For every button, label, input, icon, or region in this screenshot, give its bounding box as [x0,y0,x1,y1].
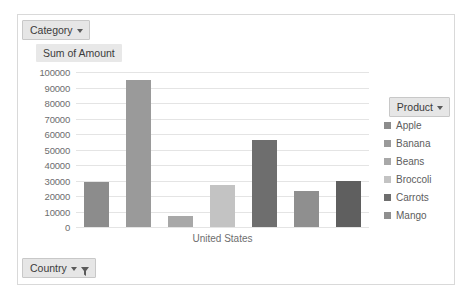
country-field-button[interactable]: Country [22,258,96,278]
bar[interactable] [294,191,319,227]
legend-item: Carrots [376,188,450,206]
y-axis-tick-label: 70000 [45,113,70,124]
y-axis: 1000009000080000700006000050000400003000… [18,72,74,227]
legend-item: Apple [376,116,450,134]
product-field-button[interactable]: Product [389,97,450,117]
legend: AppleBananaBeansBroccoliCarrotsMango [376,116,450,224]
bar[interactable] [252,140,277,227]
chart-title: Sum of Amount [36,44,122,62]
y-axis-tick-label: 100000 [39,67,70,78]
plot-area [76,72,369,227]
legend-item-label: Mango [396,210,427,221]
legend-swatch [384,212,391,219]
bar-slot [76,72,118,227]
bar[interactable] [210,185,235,227]
pivot-chart-frame: Category Sum of Amount 10000090000800007… [17,14,455,285]
legend-swatch [384,140,391,147]
bar-slot [202,72,244,227]
y-axis-tick-label: 50000 [45,144,70,155]
y-axis-tick-label: 20000 [45,191,70,202]
gridline [76,227,369,228]
legend-swatch [384,176,391,183]
y-axis-tick-label: 30000 [45,175,70,186]
legend-item-label: Beans [396,156,424,167]
bar[interactable] [84,182,109,227]
bar-slot [327,72,369,227]
y-axis-tick-label: 60000 [45,129,70,140]
legend-item: Banana [376,134,450,152]
legend-item-label: Apple [396,120,422,131]
bar-slot [160,72,202,227]
legend-item-label: Broccoli [396,174,432,185]
bar-slot [285,72,327,227]
category-field-button[interactable]: Category [22,20,90,40]
bar-series [76,72,369,227]
chevron-down-icon[interactable] [437,106,443,110]
legend-item: Beans [376,152,450,170]
y-axis-tick-label: 40000 [45,160,70,171]
legend-item-label: Banana [396,138,430,149]
product-field-label: Product [397,100,433,114]
chevron-down-icon[interactable] [77,29,83,33]
legend-item: Broccoli [376,170,450,188]
legend-swatch [384,158,391,165]
bar[interactable] [336,181,361,228]
y-axis-tick-label: 90000 [45,82,70,93]
filter-funnel-icon[interactable] [81,265,89,274]
legend-swatch [384,122,391,129]
category-field-label: Category [30,23,73,37]
bar[interactable] [126,80,151,227]
legend-swatch [384,194,391,201]
y-axis-tick-label: 0 [65,222,70,233]
y-axis-tick-label: 10000 [45,206,70,217]
chevron-down-icon[interactable] [71,267,77,271]
bar-slot [243,72,285,227]
x-axis-label: United States [76,233,369,244]
legend-item: Mango [376,206,450,224]
y-axis-tick-label: 80000 [45,98,70,109]
legend-item-label: Carrots [396,192,429,203]
country-field-label: Country [30,261,67,275]
bar[interactable] [168,216,193,227]
bar-slot [118,72,160,227]
